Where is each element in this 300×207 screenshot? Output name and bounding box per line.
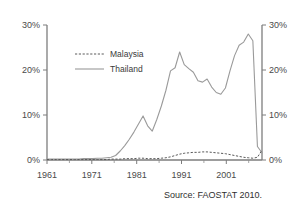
y-axis-left-label-20: 20% xyxy=(22,65,40,75)
series-line-thailand xyxy=(47,34,262,159)
x-axis: 1961 1971 1981 1991 2001 xyxy=(37,160,262,180)
x-axis-label-1961: 1961 xyxy=(37,170,57,180)
x-axis-label-1971: 1971 xyxy=(82,170,102,180)
y-axis-left-label-30: 30% xyxy=(22,20,40,30)
source-caption: Source: FAOSTAT 2010. xyxy=(164,190,262,200)
legend-label-malaysia: Malaysia xyxy=(110,49,144,59)
y-axis-right-label-0: 0% xyxy=(269,155,282,165)
x-axis-label-1991: 1991 xyxy=(171,170,191,180)
line-chart: 30% 20% 10% 0% 30% 20% 10% 0% xyxy=(0,0,300,207)
series-line-malaysia xyxy=(47,150,262,159)
chart-legend: Malaysia Thailand xyxy=(75,49,144,74)
y-axis-right-label-30: 30% xyxy=(269,20,287,30)
y-axis-left-label-0: 0% xyxy=(27,155,40,165)
legend-label-thailand: Thailand xyxy=(110,64,143,74)
x-axis-label-2001: 2001 xyxy=(216,170,236,180)
y-axis-right-label-10: 10% xyxy=(269,110,287,120)
y-axis-left: 30% 20% 10% 0% xyxy=(22,20,47,165)
y-axis-right-label-20: 20% xyxy=(269,65,287,75)
chart-figure: 30% 20% 10% 0% 30% 20% 10% 0% xyxy=(0,0,300,207)
y-axis-right: 30% 20% 10% 0% xyxy=(262,20,287,165)
y-axis-left-label-10: 10% xyxy=(22,110,40,120)
x-axis-label-1981: 1981 xyxy=(127,170,147,180)
